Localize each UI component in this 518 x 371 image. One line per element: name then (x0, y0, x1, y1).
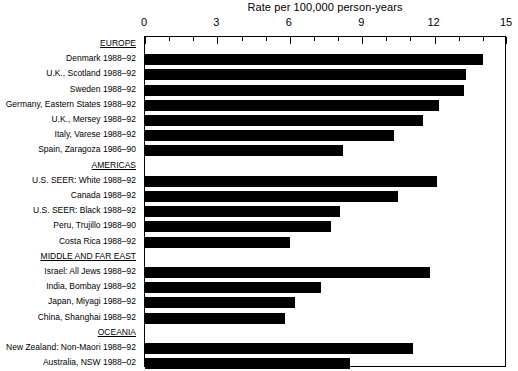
category-label: U.S. SEER: Black 1988–92 (0, 205, 136, 215)
minor-tick (266, 37, 267, 41)
minor-tick (386, 37, 387, 41)
bar-row (145, 356, 505, 371)
bar-row (145, 98, 505, 113)
category-label: Israel: All Jews 1988–92 (0, 266, 136, 276)
bar-row (145, 143, 505, 158)
bar (145, 221, 331, 232)
minor-tick (314, 37, 315, 41)
bar-row (145, 311, 505, 326)
minor-tick (459, 37, 460, 41)
bar (145, 145, 343, 156)
category-label: U.K., Scotland 1988–92 (0, 68, 136, 78)
category-label: Peru, Trujillo 1988–90 (0, 220, 136, 230)
minor-tick (242, 37, 243, 41)
bar-row (145, 219, 505, 234)
bar (145, 191, 398, 202)
bar (145, 282, 321, 293)
bar-row (145, 174, 505, 189)
category-label: China, Shanghai 1988–92 (0, 312, 136, 322)
group-label-middle-and-far-east: MIDDLE AND FAR EAST (0, 251, 136, 261)
group-label-europe: EUROPE (0, 38, 136, 48)
major-tick (145, 37, 146, 44)
minor-tick (483, 37, 484, 41)
x-tick-label-6: 6 (277, 16, 301, 28)
bar-chart: Rate per 100,000 person-years 03691215 E… (0, 0, 518, 371)
category-label: Costa Rica 1988–92 (0, 236, 136, 246)
x-tick-label-3: 3 (204, 16, 228, 28)
group-label-oceania: OCEANIA (0, 327, 136, 337)
category-label: Italy, Varese 1988–92 (0, 129, 136, 139)
category-label: Sweden 1988–92 (0, 84, 136, 94)
bar-row (145, 295, 505, 310)
category-labels: EUROPEDenmark 1988–92U.K., Scotland 1988… (0, 36, 140, 367)
bar-row (145, 341, 505, 356)
bar (145, 297, 295, 308)
group-label-americas: AMERICAS (0, 160, 136, 170)
major-tick (506, 37, 507, 44)
bar-row (145, 189, 505, 204)
x-tick-label-0: 0 (132, 16, 156, 28)
category-label: Japan, Miyagi 1988–92 (0, 296, 136, 306)
bar-row (145, 83, 505, 98)
category-label: U.S. SEER: White 1988–92 (0, 175, 136, 185)
bar (145, 176, 437, 187)
minor-tick (410, 37, 411, 41)
bar (145, 130, 394, 141)
bar-row (145, 280, 505, 295)
x-tick-label-9: 9 (349, 16, 373, 28)
bar (145, 206, 340, 217)
bar-row (145, 52, 505, 67)
category-label: U.K., Mersey 1988–92 (0, 114, 136, 124)
major-tick (290, 37, 291, 44)
bar (145, 54, 483, 65)
bar-row (145, 204, 505, 219)
bar (145, 85, 464, 96)
bar-row (145, 265, 505, 280)
category-label: New Zealand: Non-Maori 1988–92 (0, 342, 136, 352)
category-label: Denmark 1988–92 (0, 53, 136, 63)
category-label: Canada 1988–92 (0, 190, 136, 200)
bar-row (145, 235, 505, 250)
bar (145, 69, 466, 80)
bar (145, 267, 430, 278)
bar (145, 237, 290, 248)
minor-tick (338, 37, 339, 41)
x-tick-label-15: 15 (494, 16, 518, 28)
major-tick (217, 37, 218, 44)
category-label: Germany, Eastern States 1988–92 (0, 99, 136, 109)
bar (145, 115, 423, 126)
minor-tick (193, 37, 194, 41)
bar-row (145, 128, 505, 143)
bar-row (145, 67, 505, 82)
category-label: Spain, Zaragoza 1986–90 (0, 144, 136, 154)
bar (145, 313, 285, 324)
minor-tick (169, 37, 170, 41)
bar (145, 343, 413, 354)
x-tick-label-12: 12 (422, 16, 446, 28)
bar (145, 100, 439, 111)
plot-area (144, 36, 506, 367)
major-tick (435, 37, 436, 44)
bar (145, 358, 350, 369)
bar-row (145, 113, 505, 128)
category-label: Australia, NSW 1988–02 (0, 357, 136, 367)
major-tick (362, 37, 363, 44)
category-label: India, Bombay 1988–92 (0, 281, 136, 291)
chart-title: Rate per 100,000 person-years (144, 1, 506, 13)
